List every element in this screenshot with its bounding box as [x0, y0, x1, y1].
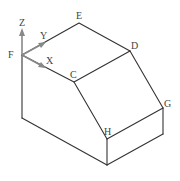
vertex-label-e: E: [76, 10, 82, 21]
edge-bottom-right: [107, 134, 163, 165]
axis-label-x: X: [46, 55, 54, 66]
edge-bottom-left: [22, 118, 107, 165]
vertex-label-f: F: [8, 49, 14, 60]
edge-H-G: [107, 108, 163, 139]
vertex-label-h: H: [104, 126, 111, 137]
vertex-label-c: C: [70, 69, 77, 80]
axis-label-z: Z: [19, 17, 25, 28]
y-arrowhead-icon: [38, 42, 46, 48]
axis-label-y: Y: [40, 30, 47, 41]
isometric-solid-diagram: Z Y X F E D C G H: [0, 0, 180, 181]
z-arrowhead-icon: [19, 28, 25, 36]
x-arrowhead-icon: [38, 62, 46, 68]
edge-F-E-D: [22, 23, 130, 55]
edge-C-H: [74, 82, 107, 139]
vertex-label-g: G: [164, 98, 171, 109]
vertex-label-d: D: [131, 40, 138, 51]
edge-D-G: [130, 51, 163, 108]
